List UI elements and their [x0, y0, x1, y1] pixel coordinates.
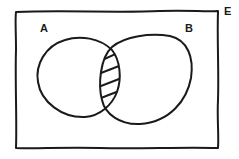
universe-label: E — [224, 6, 231, 17]
venn-diagram — [0, 0, 239, 159]
set-a-ellipse — [37, 38, 119, 117]
set-a-label: A — [40, 23, 48, 34]
set-b-label: B — [185, 23, 193, 34]
set-b-ellipse — [100, 35, 192, 124]
